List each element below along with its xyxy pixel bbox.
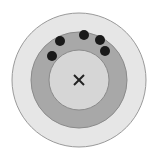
dot — [47, 51, 57, 61]
dot — [55, 36, 65, 46]
target-diagram — [0, 0, 158, 158]
dot — [79, 30, 89, 40]
dot — [95, 35, 105, 45]
dot — [100, 46, 110, 56]
